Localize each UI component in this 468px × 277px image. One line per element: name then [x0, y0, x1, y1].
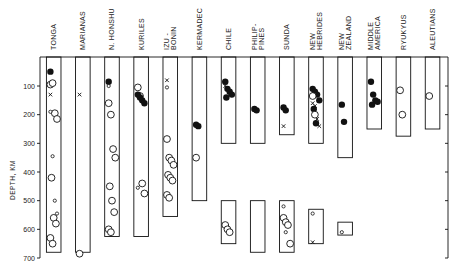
svg-text:CHILE: CHILE	[225, 28, 232, 50]
x-marker	[165, 78, 169, 82]
filled-circle-marker	[370, 91, 376, 97]
filled-circle-marker	[283, 107, 289, 113]
small-open-circle-marker	[340, 231, 343, 234]
open-circle-marker	[226, 229, 233, 236]
region-label: RYUKYUS	[400, 14, 407, 50]
small-open-circle-marker	[107, 84, 110, 87]
open-circle-marker	[107, 111, 114, 118]
open-circle-marker	[287, 240, 294, 247]
open-circle-marker	[311, 111, 318, 118]
small-open-circle-marker	[55, 212, 58, 215]
open-circle-marker	[105, 100, 112, 107]
small-open-circle-marker	[136, 186, 139, 189]
region-label: PHILIP-PINES	[251, 23, 265, 50]
svg-text:N. HONSHU: N. HONSHU	[108, 8, 115, 50]
x-marker	[49, 93, 53, 97]
filled-circle-marker	[369, 101, 375, 107]
filled-circle-marker	[229, 91, 235, 97]
region-label: IZU -BONIN	[163, 26, 177, 50]
filled-circle-marker	[47, 68, 53, 74]
svg-text:RYUKYUS: RYUKYUS	[400, 14, 407, 50]
open-circle-marker	[399, 111, 406, 118]
open-circle-marker	[52, 220, 59, 227]
open-circle-marker	[139, 180, 146, 187]
depth-range-box	[280, 57, 295, 135]
y-axis-label: DEPTH, KM	[9, 160, 16, 200]
open-circle-marker	[49, 80, 56, 87]
filled-circle-marker	[253, 107, 259, 113]
svg-text:HEBRIDES: HEBRIDES	[316, 12, 323, 50]
depth-range-box	[76, 57, 91, 252]
open-circle-marker	[111, 209, 118, 216]
y-axis: 100200300400500600700	[23, 57, 40, 262]
open-circle-marker	[309, 93, 316, 100]
filled-circle-marker	[141, 100, 147, 106]
open-circle-marker	[426, 93, 433, 100]
y-tick-label: 700	[23, 255, 35, 262]
x-marker	[317, 124, 321, 128]
open-circle-marker	[397, 87, 404, 94]
filled-circle-marker	[223, 94, 229, 100]
open-circle-marker	[49, 240, 56, 247]
depth-range-boxes	[46, 57, 439, 252]
filled-circle-marker	[339, 101, 345, 107]
svg-text:AMERICA: AMERICA	[374, 16, 381, 50]
svg-text:NEW: NEW	[309, 33, 316, 50]
depth-distribution-chart: TONGAMARIANASN. HONSHUKURILESIZU -BONINK…	[0, 0, 468, 277]
open-circle-marker	[109, 197, 116, 204]
region-label: MIDDLEAMERICA	[367, 16, 381, 50]
filled-circle-marker	[341, 119, 347, 125]
region-label: MARIANAS	[79, 11, 86, 50]
y-tick-label: 600	[23, 226, 35, 233]
small-open-circle-marker	[282, 205, 285, 208]
depth-range-box	[338, 57, 353, 158]
svg-text:KERMADEC: KERMADEC	[196, 8, 203, 50]
svg-text:ALEUTIANS: ALEUTIANS	[429, 8, 436, 50]
region-label: TONGA	[50, 24, 57, 50]
open-circle-marker	[107, 229, 114, 236]
open-circle-marker	[170, 161, 177, 168]
svg-text:TONGA: TONGA	[50, 24, 57, 50]
open-circle-marker	[54, 116, 61, 123]
y-tick-label: 100	[23, 83, 35, 90]
y-tick-label: 300	[23, 140, 35, 147]
depth-range-box	[396, 57, 411, 136]
region-label: CHILE	[225, 28, 232, 50]
svg-text:PHILIP-: PHILIP-	[251, 23, 258, 50]
open-circle-marker	[169, 177, 176, 184]
region-label: N. HONSHU	[108, 8, 115, 50]
small-open-circle-marker	[53, 199, 56, 202]
svg-text:SUNDA: SUNDA	[283, 24, 290, 50]
region-label: KERMADEC	[196, 8, 203, 50]
open-circle-marker	[106, 183, 113, 190]
depth-range-box	[250, 57, 265, 143]
depth-range-box	[221, 57, 236, 143]
right-axis	[445, 57, 448, 258]
region-label: NEWZEALAND	[338, 16, 352, 50]
region-label: SUNDA	[283, 24, 290, 50]
open-circle-marker	[193, 154, 200, 161]
svg-text:PINES: PINES	[258, 27, 265, 50]
filled-circle-marker	[222, 79, 228, 85]
open-circle-marker	[285, 222, 292, 229]
depth-range-box	[134, 57, 149, 237]
open-circle-marker	[76, 250, 83, 257]
depth-range-box	[338, 222, 353, 235]
depth-range-box	[250, 201, 265, 253]
x-marker	[311, 101, 315, 105]
svg-text:MIDDLE: MIDDLE	[367, 22, 374, 50]
region-label: NEWHEBRIDES	[309, 12, 323, 50]
svg-text:KURILES: KURILES	[138, 18, 145, 50]
small-open-circle-marker	[49, 110, 52, 113]
region-label: KURILES	[138, 18, 145, 50]
filled-circle-marker	[374, 99, 380, 105]
open-circle-marker	[166, 194, 173, 201]
small-open-circle-marker	[284, 231, 287, 234]
svg-text:ZEALAND: ZEALAND	[345, 16, 352, 50]
filled-circle-marker	[195, 123, 201, 129]
open-circle-marker	[134, 84, 141, 91]
svg-text:NEW: NEW	[338, 33, 345, 50]
y-tick-label: 200	[23, 111, 35, 118]
open-circle-marker	[48, 174, 55, 181]
small-open-circle-marker	[51, 155, 54, 158]
